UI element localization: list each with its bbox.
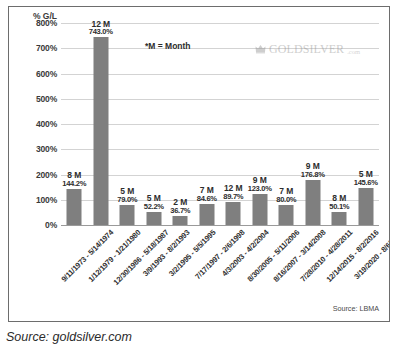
- y-axis-tick-label: 400%: [36, 119, 57, 129]
- bar-percent-label: 52.2%: [144, 203, 164, 211]
- bar[interactable]: [279, 205, 294, 225]
- bar[interactable]: [226, 202, 241, 225]
- watermark-name: GOLDSILVER: [269, 42, 344, 57]
- watermark-suffix: .com: [347, 48, 360, 55]
- bar-percent-label: 84.6%: [197, 195, 217, 203]
- bar-percent-label: 123.0%: [248, 185, 272, 193]
- bar[interactable]: [146, 212, 161, 225]
- y-axis-tick-label: 800%: [36, 18, 57, 28]
- bar-value-label: 7 M80.0%: [276, 187, 296, 204]
- bar-slot: 7 M84.6%: [194, 23, 221, 225]
- bar-value-label: 2 M36.7%: [170, 198, 190, 215]
- bar-value-label: 12 M743.0%: [89, 20, 113, 37]
- y-axis-tick-label: 300%: [36, 144, 57, 154]
- bar-percent-label: 79.0%: [117, 196, 137, 204]
- month-legend-note: *M = Month: [145, 41, 191, 51]
- bar-value-label: 7 M84.6%: [197, 186, 217, 203]
- bar-value-label: 5 M52.2%: [144, 194, 164, 211]
- bar-percent-label: 144.2%: [62, 180, 86, 188]
- bar-slot: 12 M743.0%: [88, 23, 115, 225]
- bar-slot: 5 M79.0%: [114, 23, 141, 225]
- x-axis-tick-label: 1/12/1979 - 1/21/1980: [86, 228, 142, 284]
- bar-percent-label: 89.7%: [223, 193, 243, 201]
- bar-slot: 5 M52.2%: [141, 23, 168, 225]
- bar-value-label: 8 M50.1%: [329, 194, 349, 211]
- chart-source-note: Source: LBMA: [333, 304, 379, 313]
- x-axis-tick-label: 3/2/1995 - 5/5/1995: [167, 228, 217, 278]
- bar-percent-label: 80.0%: [276, 196, 296, 204]
- bar-percent-label: 176.8%: [301, 171, 325, 179]
- bar-percent-label: 50.1%: [329, 203, 349, 211]
- bar-percent-label: 36.7%: [170, 207, 190, 215]
- bar-value-label: 12 M89.7%: [223, 184, 243, 201]
- bar-value-label: 9 M176.8%: [301, 162, 325, 179]
- bar[interactable]: [120, 205, 135, 225]
- bar-value-label: 9 M123.0%: [248, 176, 272, 193]
- gridline: [61, 225, 379, 226]
- y-axis-tick-label: 600%: [36, 69, 57, 79]
- goldsilver-crown-logo-icon: [255, 40, 266, 58]
- bar[interactable]: [358, 188, 373, 225]
- bar[interactable]: [332, 212, 347, 225]
- bar-percent-label: 743.0%: [89, 28, 113, 36]
- bar[interactable]: [199, 204, 214, 225]
- y-axis-tick-label: 100%: [36, 195, 57, 205]
- bar-value-label: 8 M144.2%: [62, 171, 86, 188]
- bar-slot: 8 M144.2%: [61, 23, 88, 225]
- bar-slot: 12 M89.7%: [220, 23, 247, 225]
- bar-percent-label: 145.6%: [354, 179, 378, 187]
- y-axis-tick-label: 500%: [36, 94, 57, 104]
- y-axis-tick-label: 0%: [45, 220, 57, 230]
- bar[interactable]: [173, 216, 188, 225]
- bar-value-label: 5 M145.6%: [354, 170, 378, 187]
- bar-slot: 2 M36.7%: [167, 23, 194, 225]
- bar[interactable]: [305, 180, 320, 225]
- y-axis-tick-label: 200%: [36, 170, 57, 180]
- y-axis-tick-label: 700%: [36, 43, 57, 53]
- figure-source-caption: Source: goldsilver.com: [6, 330, 132, 344]
- bar[interactable]: [252, 194, 267, 225]
- bar-value-label: 5 M79.0%: [117, 187, 137, 204]
- goldsilver-watermark: GOLDSILVER .com: [255, 40, 360, 58]
- bar[interactable]: [67, 189, 82, 225]
- chart-frame: % G/L 800%700%600%500%400%300%200%100%0%…: [8, 6, 390, 322]
- bar[interactable]: [93, 37, 108, 225]
